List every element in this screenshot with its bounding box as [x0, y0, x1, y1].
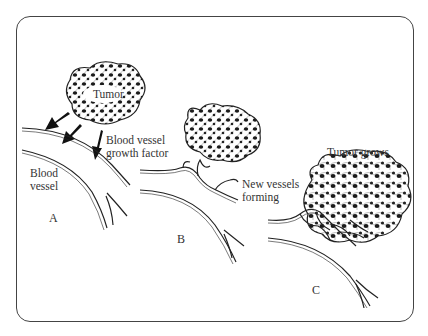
tumor-grows-label: Tumor grows	[327, 146, 389, 158]
panel-label-a: A	[49, 211, 58, 226]
growth-factor-label-line1: Blood vessel	[106, 134, 165, 146]
panel-label-b: B	[177, 232, 185, 247]
growth-factor-label-line2: growth factor	[106, 147, 168, 159]
tumor-c	[304, 150, 411, 243]
angiogenesis-illustration	[0, 0, 428, 336]
new-vessels-label-line2: forming	[242, 191, 279, 203]
tumor-label: Tumor	[93, 88, 124, 100]
blood-vessel-label-line2: vessel	[30, 180, 58, 192]
blood-vessel-b	[140, 160, 244, 264]
blood-vessel-label-line1: Blood	[30, 167, 58, 179]
new-vessels-label-line1: New vessels	[242, 178, 299, 190]
tumor-b	[184, 104, 260, 162]
panel-label-c: C	[312, 283, 320, 298]
